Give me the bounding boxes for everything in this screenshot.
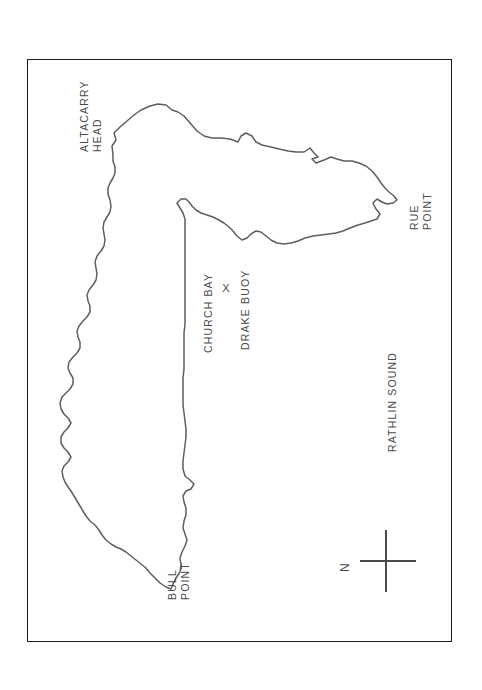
label-bull-point-line1: BULL	[166, 569, 178, 600]
label-bull-point: BULL POINT	[166, 562, 191, 600]
compass-north-label: N	[338, 563, 352, 572]
label-rue-point-line2: POINT	[421, 192, 433, 230]
drake-buoy-x-marker: X	[220, 282, 232, 294]
label-drake-buoy: DRAKE BUOY	[240, 270, 251, 350]
label-altacarry-head-line2: HEAD	[91, 118, 103, 152]
compass-horizontal-arm	[360, 560, 416, 562]
label-rue-point-line1: RUE	[408, 204, 420, 230]
compass-rose: N	[336, 528, 416, 598]
compass-cross-icon	[358, 528, 416, 594]
label-rue-point: RUE POINT	[408, 192, 433, 230]
label-altacarry-head: ALTACARRY HEAD	[78, 80, 103, 152]
map-canvas: ALTACARRY HEAD RUE POINT CHURCH BAY DRAK…	[0, 0, 482, 690]
label-altacarry-head-line1: ALTACARRY	[78, 80, 90, 152]
label-bull-point-line2: POINT	[179, 562, 191, 600]
label-rathlin-sound: RATHLIN SOUND	[387, 352, 398, 452]
label-church-bay: CHURCH BAY	[203, 273, 214, 353]
